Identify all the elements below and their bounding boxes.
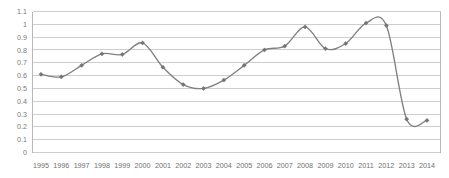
x-tick-label: 1997 bbox=[74, 161, 90, 170]
x-tick-label: 2011 bbox=[358, 161, 373, 170]
x-tick-label: 1995 bbox=[33, 161, 49, 170]
x-tick-label: 1998 bbox=[94, 161, 110, 170]
x-tick-label: 1999 bbox=[114, 161, 130, 170]
y-tick-label: 0.7 bbox=[17, 58, 27, 67]
x-tick-label: 2014 bbox=[419, 161, 435, 170]
x-tick-label: 2009 bbox=[317, 161, 333, 170]
x-tick-label: 2007 bbox=[277, 161, 293, 170]
x-tick-label: 2000 bbox=[135, 161, 151, 170]
x-tick-label: 2004 bbox=[216, 161, 232, 170]
y-tick-label: 0.9 bbox=[17, 33, 27, 42]
y-tick-label: 0.1 bbox=[17, 135, 27, 144]
x-tick-label: 2012 bbox=[378, 161, 394, 170]
line-chart: 1.110.90.80.70.60.50.40.30.20.10 1995199… bbox=[0, 0, 449, 178]
y-tick-label: 0 bbox=[23, 148, 27, 157]
x-tick-label: 2006 bbox=[256, 161, 272, 170]
x-tick-label: 2002 bbox=[175, 161, 191, 170]
x-tick-label: 2013 bbox=[399, 161, 415, 170]
x-tick-label: 1996 bbox=[53, 161, 69, 170]
y-tick-label: 1 bbox=[23, 20, 27, 29]
y-tick-label: 0.8 bbox=[17, 46, 27, 55]
x-tick-label: 2005 bbox=[236, 161, 252, 170]
y-tick-label: 0.5 bbox=[17, 84, 27, 93]
y-tick-label: 0.3 bbox=[17, 110, 27, 119]
chart-background bbox=[0, 0, 449, 178]
x-tick-label: 2008 bbox=[297, 161, 313, 170]
y-tick-label: 0.4 bbox=[17, 97, 27, 106]
y-tick-label: 1.1 bbox=[17, 7, 27, 16]
y-tick-label: 0.2 bbox=[17, 122, 27, 131]
x-tick-label: 2003 bbox=[196, 161, 212, 170]
chart-canvas: 1.110.90.80.70.60.50.40.30.20.10 1995199… bbox=[0, 0, 449, 178]
y-tick-label: 0.6 bbox=[17, 71, 27, 80]
x-tick-label: 2010 bbox=[338, 161, 354, 170]
x-tick-label: 2001 bbox=[155, 161, 171, 170]
